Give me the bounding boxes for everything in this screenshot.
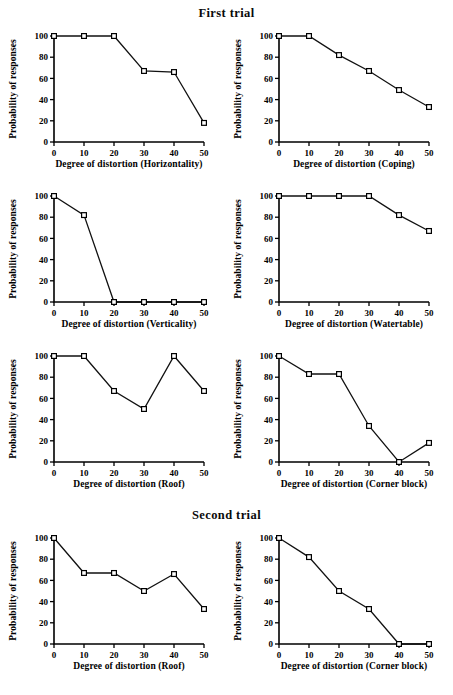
svg-text:30: 30 bbox=[365, 650, 375, 660]
svg-text:10: 10 bbox=[80, 650, 90, 660]
data-point-marker bbox=[142, 589, 147, 594]
svg-text:60: 60 bbox=[39, 234, 49, 244]
y-axis-title: Probability of responses bbox=[233, 199, 243, 299]
data-series-line bbox=[279, 36, 429, 107]
svg-text:30: 30 bbox=[365, 308, 375, 318]
axes bbox=[279, 196, 429, 302]
x-axis-title: Degree of distortion (Coping) bbox=[293, 159, 415, 170]
data-point-marker bbox=[397, 88, 402, 93]
svg-text:0: 0 bbox=[52, 650, 57, 660]
x-axis-ticks: 01020304050 bbox=[52, 644, 209, 660]
svg-text:10: 10 bbox=[305, 468, 315, 478]
svg-text:0: 0 bbox=[269, 137, 274, 147]
chart-panel-3: 02040608010001020304050Degree of distort… bbox=[227, 182, 453, 342]
svg-text:0: 0 bbox=[269, 457, 274, 467]
svg-text:60: 60 bbox=[264, 576, 274, 586]
data-point-marker bbox=[337, 53, 342, 58]
data-series-line bbox=[54, 36, 204, 123]
data-point-marker bbox=[112, 571, 117, 576]
data-series-line bbox=[54, 356, 204, 409]
svg-text:40: 40 bbox=[39, 415, 49, 425]
svg-text:20: 20 bbox=[264, 276, 274, 286]
chart-panel-grid: 02040608010001020304050Degree of distort… bbox=[0, 0, 453, 695]
data-point-marker bbox=[337, 194, 342, 199]
chart-panel-7: 02040608010001020304050Degree of distort… bbox=[227, 524, 453, 684]
axes bbox=[54, 196, 204, 302]
svg-text:50: 50 bbox=[200, 650, 210, 660]
svg-text:80: 80 bbox=[264, 212, 274, 222]
svg-text:10: 10 bbox=[305, 308, 315, 318]
svg-text:60: 60 bbox=[264, 234, 274, 244]
svg-text:30: 30 bbox=[140, 468, 150, 478]
chart-panel-0: 02040608010001020304050Degree of distort… bbox=[2, 22, 228, 182]
svg-text:10: 10 bbox=[305, 148, 315, 158]
x-axis-title: Degree of distortion (Verticality) bbox=[61, 319, 196, 330]
x-axis-ticks: 01020304050 bbox=[52, 142, 209, 158]
svg-text:50: 50 bbox=[200, 148, 210, 158]
svg-text:20: 20 bbox=[39, 436, 49, 446]
svg-text:40: 40 bbox=[39, 95, 49, 105]
data-point-marker bbox=[52, 354, 57, 359]
axes bbox=[54, 538, 204, 644]
x-axis-title: Degree of distortion (Corner block) bbox=[281, 479, 428, 490]
svg-text:50: 50 bbox=[200, 308, 210, 318]
data-series-line bbox=[279, 196, 429, 231]
axes bbox=[54, 36, 204, 142]
svg-text:20: 20 bbox=[335, 308, 345, 318]
y-axis-ticks: 020406080100 bbox=[35, 351, 55, 467]
svg-text:80: 80 bbox=[39, 212, 49, 222]
svg-text:0: 0 bbox=[44, 457, 49, 467]
data-point-marker bbox=[427, 105, 432, 110]
data-point-marker bbox=[172, 300, 177, 305]
svg-text:100: 100 bbox=[35, 351, 49, 361]
svg-text:20: 20 bbox=[39, 276, 49, 286]
data-point-marker bbox=[427, 642, 432, 647]
svg-text:50: 50 bbox=[425, 468, 435, 478]
data-point-marker bbox=[367, 69, 372, 74]
svg-text:80: 80 bbox=[39, 372, 49, 382]
data-point-marker bbox=[142, 69, 147, 74]
svg-text:0: 0 bbox=[44, 137, 49, 147]
data-point-markers bbox=[52, 34, 207, 126]
x-axis-title: Degree of distortion (Watertable) bbox=[285, 319, 423, 330]
svg-text:40: 40 bbox=[264, 415, 274, 425]
axes bbox=[54, 356, 204, 462]
data-point-marker bbox=[367, 424, 372, 429]
data-point-marker bbox=[202, 607, 207, 612]
svg-text:20: 20 bbox=[264, 436, 274, 446]
y-axis-title: Probability of responses bbox=[8, 541, 18, 641]
chart-panel-6: 02040608010001020304050Degree of distort… bbox=[2, 524, 228, 684]
data-point-marker bbox=[397, 460, 402, 465]
svg-text:0: 0 bbox=[269, 297, 274, 307]
data-point-marker bbox=[307, 555, 312, 560]
svg-text:60: 60 bbox=[39, 576, 49, 586]
y-axis-ticks: 020406080100 bbox=[35, 31, 55, 147]
x-axis-ticks: 01020304050 bbox=[277, 462, 434, 478]
svg-text:40: 40 bbox=[170, 650, 180, 660]
svg-text:20: 20 bbox=[110, 148, 120, 158]
data-point-marker bbox=[82, 34, 87, 39]
svg-text:0: 0 bbox=[277, 308, 282, 318]
svg-text:20: 20 bbox=[335, 468, 345, 478]
chart-panel-4: 02040608010001020304050Degree of distort… bbox=[2, 342, 228, 502]
svg-text:30: 30 bbox=[140, 650, 150, 660]
svg-text:20: 20 bbox=[39, 618, 49, 628]
data-point-marker bbox=[52, 536, 57, 541]
x-axis-ticks: 01020304050 bbox=[52, 302, 209, 318]
data-point-marker bbox=[52, 34, 57, 39]
svg-text:30: 30 bbox=[140, 148, 150, 158]
chart-panel-2: 02040608010001020304050Degree of distort… bbox=[2, 182, 228, 342]
svg-text:0: 0 bbox=[277, 148, 282, 158]
chart-first-trial-horizontality: 02040608010001020304050Degree of distort… bbox=[2, 22, 228, 182]
svg-text:60: 60 bbox=[264, 394, 274, 404]
data-point-marker bbox=[397, 642, 402, 647]
y-axis-title: Probability of responses bbox=[233, 359, 243, 459]
data-point-marker bbox=[427, 441, 432, 446]
data-point-markers bbox=[52, 354, 207, 412]
data-point-marker bbox=[202, 389, 207, 394]
x-axis-ticks: 01020304050 bbox=[277, 302, 434, 318]
svg-text:20: 20 bbox=[110, 468, 120, 478]
svg-text:100: 100 bbox=[260, 351, 274, 361]
data-point-markers bbox=[277, 34, 432, 110]
data-point-markers bbox=[277, 194, 432, 234]
